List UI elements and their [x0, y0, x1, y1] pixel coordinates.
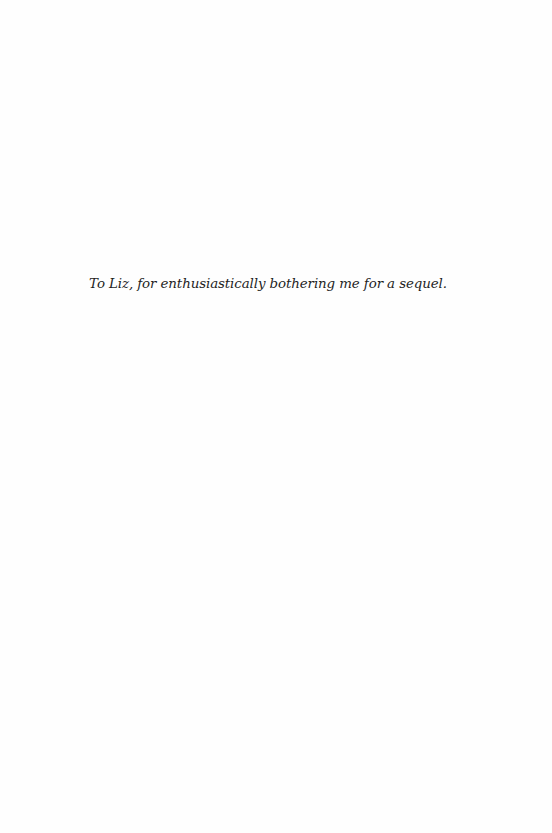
book-page: To Liz, for enthusiastically bothering m… — [0, 0, 552, 833]
dedication-text: To Liz, for enthusiastically bothering m… — [0, 275, 536, 293]
